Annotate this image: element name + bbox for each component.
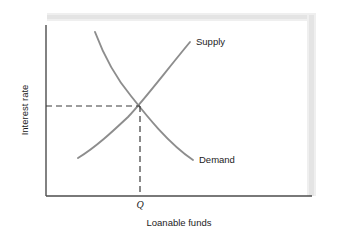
x-axis-title: Loanable funds xyxy=(147,217,212,228)
y-axis-title: Interest rate xyxy=(19,85,30,136)
demand-curve-label: Demand xyxy=(199,154,235,165)
demand-curve xyxy=(95,32,193,160)
loanable-funds-market-figure: Supply Demand Q Loanable funds Interest … xyxy=(0,0,342,234)
equilibrium-quantity-label: Q xyxy=(136,199,144,210)
right-shadow-bar-inner xyxy=(309,15,314,196)
top-shadow-bar-inner xyxy=(47,15,313,19)
supply-curve-label: Supply xyxy=(196,36,225,47)
